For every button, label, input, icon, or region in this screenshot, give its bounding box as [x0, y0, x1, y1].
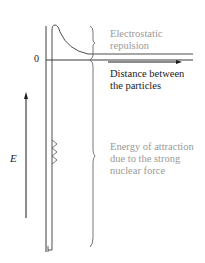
attraction-brace-icon: [90, 60, 95, 247]
potential-energy-diagram: 0 E Electrostatic repulsion Distance bet…: [0, 0, 205, 263]
repulsion-label-line2: repulsion: [110, 40, 149, 52]
distance-arrowhead-icon: [176, 60, 182, 64]
potential-energy-curve: [48, 25, 193, 250]
distance-label-line1: Distance between: [110, 68, 184, 80]
attraction-label-line2: due to the strong: [110, 153, 180, 165]
energy-axis-label: E: [10, 152, 17, 164]
distance-label-line2: the particles: [110, 80, 161, 92]
attraction-label-line1: Energy of attraction: [110, 141, 194, 153]
energy-arrowhead-icon: [24, 92, 28, 99]
zero-label: 0: [34, 53, 39, 65]
attraction-label-line3: nuclear force: [110, 165, 165, 177]
diagram-graphics: [0, 0, 205, 263]
repulsion-label-line1: Electrostatic: [110, 28, 162, 40]
repulsion-brace-icon: [90, 26, 95, 60]
spring-icon: [52, 140, 57, 164]
